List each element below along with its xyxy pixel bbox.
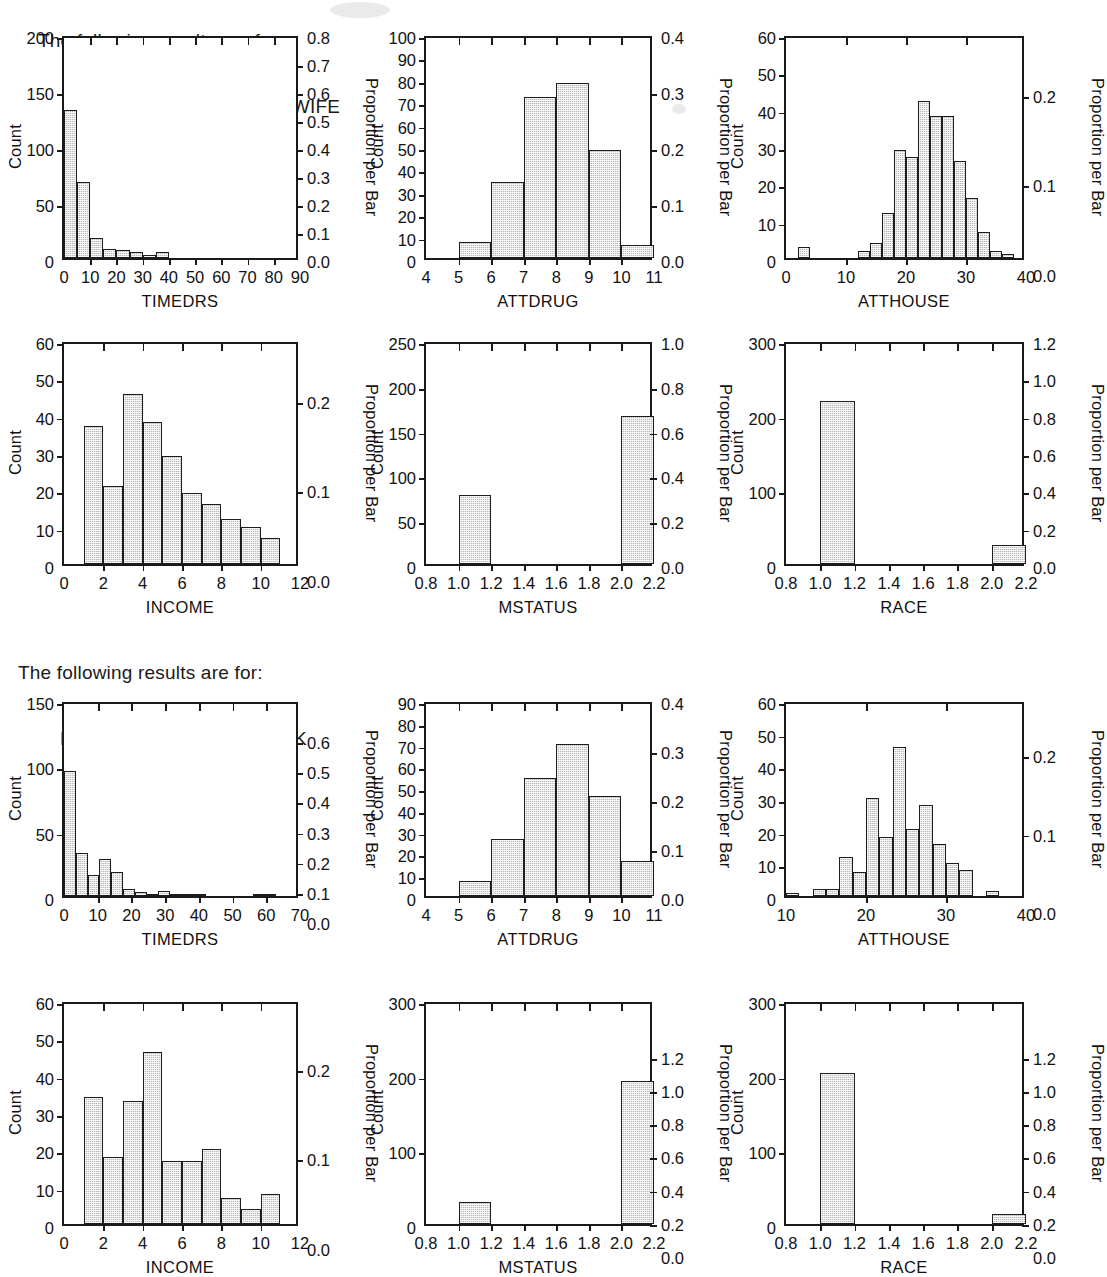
x-tick-label: 70 (238, 269, 256, 286)
x-tick (556, 258, 558, 265)
y2-tick (650, 150, 657, 152)
y-tick (57, 1116, 64, 1118)
plot-area: 01020304050607080900.00.10.20.30.4456789… (424, 702, 652, 898)
x-tick-label: 1.0 (809, 575, 832, 592)
x-tick-label: 4 (421, 907, 430, 924)
histogram-timedrs-paidwork: 0501001500.00.10.20.30.40.50.60102030405… (62, 702, 298, 898)
x-tick-label: 2.2 (643, 575, 666, 592)
y-tick (57, 1041, 64, 1043)
y-tick (419, 172, 426, 174)
x-tick-top (98, 704, 100, 711)
x-tick-top (923, 344, 925, 351)
y2-tick-label: 0.4 (661, 1183, 684, 1200)
y2-tick (1022, 531, 1029, 533)
x-tick-top (248, 38, 250, 45)
histogram-bar (123, 394, 143, 564)
y-tick (779, 704, 786, 706)
x-tick-top (182, 1004, 184, 1011)
y-tick-label: 300 (748, 996, 776, 1013)
scan-artifact (672, 104, 686, 114)
x-axis-title: RACE (880, 598, 927, 617)
x-axis-title: RACE (880, 1258, 927, 1277)
y-tick (57, 206, 64, 208)
y-axis-title: Count (6, 1090, 25, 1135)
y2-tick-label: 0.0 (307, 916, 330, 933)
x-tick-top (957, 344, 959, 351)
x-tick (103, 564, 105, 571)
histogram-bar (103, 249, 116, 258)
x-tick (992, 1224, 994, 1231)
y2-tick-label: 0.0 (307, 574, 330, 591)
y-tick (779, 737, 786, 739)
y-tick-label: 100 (748, 485, 776, 502)
y2-tick-label: 0.2 (1033, 522, 1056, 539)
x-tick-top (143, 38, 145, 45)
histogram-bar (459, 242, 492, 258)
histogram-bar (88, 875, 100, 896)
x-tick-label: 9 (584, 269, 593, 286)
histogram-bar (946, 863, 959, 896)
bar-series (786, 344, 1022, 564)
histogram-timedrs-housewife: 0501001502000.00.10.20.30.40.50.60.70.80… (62, 36, 298, 260)
y2-axis-title: Proportion per Bar (1088, 730, 1107, 868)
x-tick (889, 564, 891, 571)
y2-tick (650, 434, 657, 436)
x-tick-top (103, 1004, 105, 1011)
y-tick-label: 30 (758, 142, 776, 159)
x-tick-top (946, 704, 948, 711)
y2-tick-label: 0.0 (661, 892, 684, 909)
y-tick (419, 835, 426, 837)
x-tick (165, 896, 167, 903)
y-tick-label: 40 (398, 805, 416, 822)
plot-area: 01020304050600.00.10.210203040ATTHOUSECo… (784, 702, 1024, 898)
y2-tick-label: 0.0 (1033, 268, 1056, 285)
x-tick-label: 10 (81, 269, 99, 286)
histogram-atthouse-paidwork: 01020304050600.00.10.210203040ATTHOUSECo… (784, 702, 1024, 898)
x-tick-label: 1.4 (877, 1235, 900, 1252)
y-tick (419, 478, 426, 480)
y2-tick-label: 0.4 (1033, 1183, 1056, 1200)
x-tick-top (221, 344, 223, 351)
x-tick-label: 40 (1017, 907, 1035, 924)
y-tick-label: 10 (398, 870, 416, 887)
x-axis-title: TIMEDRS (141, 930, 218, 949)
y-tick (419, 704, 426, 706)
histogram-bar (202, 504, 222, 564)
histogram-bar (221, 519, 241, 564)
y-tick (779, 225, 786, 227)
y-tick-label: 0 (45, 254, 54, 271)
x-tick-label: 5 (454, 269, 463, 286)
y2-tick (1022, 419, 1029, 421)
y-tick (419, 791, 426, 793)
y-tick-label: 30 (758, 794, 776, 811)
x-tick-top (889, 344, 891, 351)
histogram-bar (162, 1161, 182, 1224)
x-tick-top (143, 1004, 145, 1011)
x-tick-label: 1.8 (577, 575, 600, 592)
y2-tick (296, 234, 303, 236)
x-tick-top (621, 38, 623, 45)
y-tick-label: 0 (767, 892, 776, 909)
x-tick-label: 1.0 (809, 1235, 832, 1252)
x-tick-top (621, 704, 623, 711)
x-tick-top (957, 1004, 959, 1011)
plot-area: 01002003000.00.20.40.60.81.01.20.81.01.2… (424, 1002, 652, 1226)
x-tick-label: 1.4 (512, 575, 535, 592)
y-tick-label: 50 (36, 1033, 54, 1050)
x-tick-label: 2.0 (610, 575, 633, 592)
y-axis-title: Count (728, 124, 747, 169)
x-axis-title: MSTATUS (498, 598, 577, 617)
y-tick-label: 80 (398, 718, 416, 735)
histogram-bar (170, 894, 182, 896)
histogram-bar (930, 116, 942, 258)
y2-axis-title: Proportion per Bar (1088, 78, 1107, 216)
y-tick (57, 38, 64, 40)
y2-tick (650, 802, 657, 804)
y2-tick (650, 1059, 657, 1061)
plot-area: 01020304050600.00.10.2024681012INCOMECou… (62, 342, 298, 566)
histogram-bar (839, 857, 852, 896)
x-tick-label: 0.8 (415, 575, 438, 592)
x-tick-top (524, 1004, 526, 1011)
x-tick-top (459, 38, 461, 45)
y2-tick (1022, 1225, 1029, 1227)
